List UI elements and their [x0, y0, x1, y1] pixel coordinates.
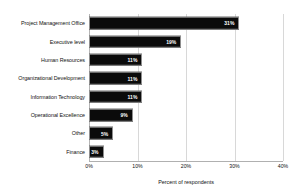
bar-row: Executive level19%: [89, 32, 283, 50]
x-tick-label: 0%: [85, 163, 93, 169]
bar-value-label: 11%: [128, 75, 138, 81]
bar-row: Other5%: [89, 124, 283, 142]
bar-value-label: 3%: [91, 149, 98, 155]
bar-value-label: 9%: [120, 112, 127, 118]
category-label: Human Resources: [41, 57, 85, 63]
x-axis-line: [89, 161, 283, 162]
bar-row: Organizational Development11%: [89, 69, 283, 87]
category-label: Other: [72, 130, 85, 136]
bar: 31%: [89, 17, 239, 30]
bar-row: Finance3%: [89, 143, 283, 161]
bar-value-label: 19%: [166, 39, 176, 45]
x-tick-label: 30%: [229, 163, 239, 169]
bar: 9%: [89, 109, 133, 122]
bar-value-label: 31%: [224, 20, 234, 26]
x-tick-label: 40%: [278, 163, 288, 169]
category-label: Organizational Development: [18, 75, 85, 81]
category-label: Executive level: [50, 39, 85, 45]
bar: 11%: [89, 54, 142, 67]
bar: 11%: [89, 72, 142, 85]
bar-chart: Project Management Office31%Executive le…: [0, 0, 296, 196]
category-label: Finance: [66, 149, 85, 155]
x-tick-label: 10%: [132, 163, 142, 169]
category-label: Information Technology: [30, 94, 85, 100]
bar: 19%: [89, 35, 181, 48]
bar-row: Information Technology11%: [89, 88, 283, 106]
x-axis-title: Percent of respondents: [89, 179, 283, 185]
bar-row: Human Resources11%: [89, 51, 283, 69]
bar: 5%: [89, 127, 113, 140]
gridline-40: [283, 14, 284, 161]
bar: 3%: [89, 146, 104, 159]
bar-row: Project Management Office31%: [89, 14, 283, 32]
category-label: Project Management Office: [21, 20, 85, 26]
x-tick-label: 20%: [181, 163, 191, 169]
bar-value-label: 11%: [128, 94, 138, 100]
bar-value-label: 11%: [128, 57, 138, 63]
bar: 11%: [89, 90, 142, 103]
bar-row: Operational Excellence9%: [89, 106, 283, 124]
bar-value-label: 5%: [101, 130, 108, 136]
category-label: Operational Excellence: [31, 112, 85, 118]
